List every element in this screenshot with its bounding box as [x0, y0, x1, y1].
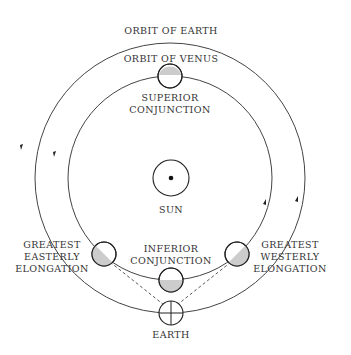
- sightline-west: [177, 262, 231, 305]
- label-easterly-line2: EASTERLY: [24, 251, 80, 262]
- label-westerly-line2: WESTERLY: [261, 251, 320, 262]
- venus-inferior-conjunction: [159, 268, 183, 292]
- earth-symbol-icon: [159, 301, 183, 325]
- label-earth: EARTH: [152, 329, 189, 340]
- label-sun: SUN: [159, 204, 183, 215]
- label-inferior-line1: INFERIOR: [144, 243, 199, 254]
- venus-superior-conjunction: [158, 64, 182, 88]
- label-westerly-line1: GREATEST: [261, 239, 319, 250]
- label-westerly-line3: ELONGATION: [253, 263, 326, 274]
- label-inferior-line2: CONJUNCTION: [130, 255, 211, 266]
- label-superior-line2: CONJUNCTION: [129, 104, 210, 115]
- venus-phases-diagram: ORBIT OF EARTH ORBIT OF VENUS SUPERIOR C…: [0, 0, 351, 355]
- label-easterly-line3: ELONGATION: [15, 263, 88, 274]
- sun: [153, 160, 189, 196]
- venus-greatest-easterly-elongation: [92, 242, 116, 266]
- sun-center-dot: [169, 176, 174, 181]
- venus-greatest-westerly-elongation: [225, 242, 249, 266]
- label-easterly-line1: GREATEST: [23, 239, 81, 250]
- sightline-east: [110, 262, 164, 305]
- label-orbit-earth: ORBIT OF EARTH: [124, 25, 217, 36]
- label-superior-line1: SUPERIOR: [142, 92, 199, 103]
- label-orbit-venus: ORBIT OF VENUS: [124, 53, 219, 64]
